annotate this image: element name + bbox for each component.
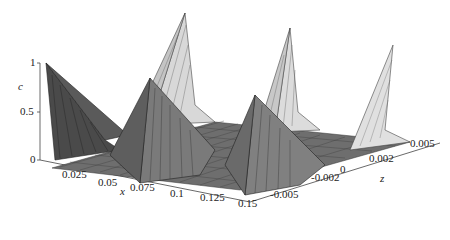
c-axis-ticks <box>37 63 40 160</box>
x-tick-0.075: 0.075 <box>130 181 155 193</box>
x-tick-0.1: 0.1 <box>170 187 184 199</box>
z-tick-neg0.005: -0.005 <box>270 188 298 200</box>
z-tick-0.002: 0.002 <box>369 152 394 164</box>
z-tick-0.005: 0.005 <box>410 137 435 149</box>
x-tick-0.05: 0.05 <box>98 176 117 188</box>
c-tick-0.5: 0.5 <box>20 105 34 117</box>
z-axis-title: z <box>380 172 384 184</box>
c-axis-title: c <box>18 80 23 92</box>
z-tick-0: 0 <box>340 163 346 175</box>
c-tick-0: 0 <box>30 153 36 165</box>
x-tick-0.15: 0.15 <box>238 197 257 209</box>
x-tick-0.125: 0.125 <box>200 191 225 203</box>
z-tick-neg0.002: -0.002 <box>311 171 339 183</box>
c-tick-1: 1 <box>30 56 36 68</box>
peak-right-edge <box>350 45 410 150</box>
x-axis-title: x <box>120 185 125 197</box>
x-tick-0.025: 0.025 <box>62 168 87 180</box>
